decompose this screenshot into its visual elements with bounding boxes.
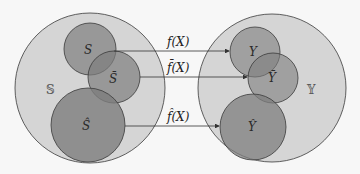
arrow-f-hat-label: f̂(X) [166,108,190,124]
arrow-f-label: f(X) [166,35,190,49]
domain-set: 𝕊 S S̄ Ŝ [15,13,165,163]
subset-s-bar-label: S̄ [109,71,117,86]
subset-s-hat-label: Ŝ [82,117,90,133]
codomain-set: 𝕐 Y Ȳ Ŷ [198,14,346,162]
domain-set-label: 𝕊 [46,83,55,97]
subset-s-label: S [84,43,92,57]
subset-y-bar-label: Ȳ [268,70,277,85]
subset-y-label: Y [249,45,258,59]
arrow-f-bar-label: f̄(X) [166,59,190,75]
codomain-set-label: 𝕐 [306,83,316,97]
subset-y-hat-label: Ŷ [248,119,257,134]
set-mapping-diagram: 𝕊 S S̄ Ŝ 𝕐 Y Ȳ Ŷ f(X) f̄(X) f̂(X) [0,0,360,174]
